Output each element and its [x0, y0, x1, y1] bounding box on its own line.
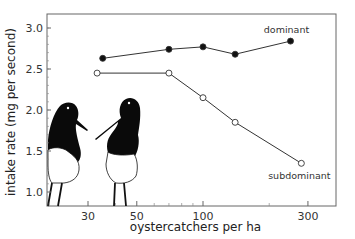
y-tick-label: 2.5 [26, 63, 44, 76]
data-point-subdominant [298, 160, 304, 166]
data-point-subdominant [94, 70, 100, 76]
y-tick-label: 1.0 [26, 186, 44, 199]
data-point-dominant [100, 55, 106, 61]
series-label-dominant: dominant [264, 24, 310, 35]
x-tick-label: 300 [297, 210, 318, 223]
x-tick-label: 30 [81, 210, 95, 223]
data-point-dominant [166, 46, 172, 52]
right-bird-icon [95, 98, 140, 206]
y-axis-label: intake rate (mg per second) [4, 28, 18, 196]
x-axis-label: oystercatchers per ha [130, 220, 261, 234]
series-label-subdominant: subdominant [268, 170, 331, 181]
data-point-subdominant [200, 95, 206, 101]
oystercatcher-illustration [48, 98, 140, 206]
y-tick-label: 1.5 [26, 145, 44, 158]
line-chart: 1.01.52.02.53.03050100300 dominantsubdom… [0, 0, 355, 239]
data-point-subdominant [232, 119, 238, 125]
data-point-subdominant [166, 70, 172, 76]
data-point-dominant [200, 44, 206, 50]
series-line-dominant [103, 41, 291, 58]
data-point-dominant [232, 51, 238, 57]
left-bird-icon [48, 103, 88, 206]
y-tick-label: 3.0 [26, 22, 44, 35]
data-point-dominant [288, 38, 294, 44]
y-tick-label: 2.0 [26, 104, 44, 117]
